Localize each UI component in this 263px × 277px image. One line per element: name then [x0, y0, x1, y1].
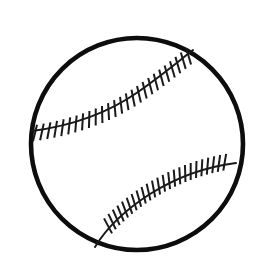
stitch-mark: [201, 159, 202, 176]
ball-outline: [31, 38, 243, 250]
baseball-illustration: Baseball: [0, 0, 263, 277]
stitch-mark: [179, 167, 180, 184]
baseball-drawing: Baseball: [0, 0, 263, 277]
stitch-mark: [185, 165, 186, 182]
stitch-mark: [82, 113, 83, 130]
stitch-mark: [89, 111, 90, 128]
stitch-mark: [108, 103, 109, 120]
stitch-mark: [207, 158, 208, 175]
